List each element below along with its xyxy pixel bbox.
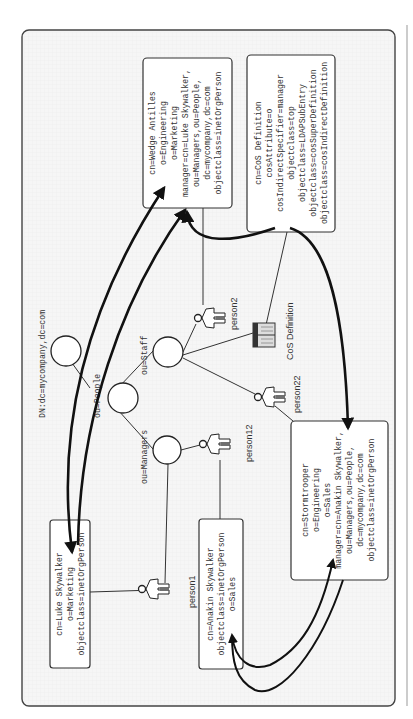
cos-diagram: DN:dc=mycompany,dc=com ou=People ou=Staf… bbox=[0, 0, 413, 719]
stormtrooper-line-7: objectclass=inetOrgPerson bbox=[367, 439, 376, 562]
wedge-line-5: ou=Managers,ou=People, bbox=[192, 79, 201, 187]
person22-label: person22 bbox=[292, 375, 302, 413]
anakin-line-2: objectclass=inetOrgPerson bbox=[217, 533, 226, 656]
wedge-line-6: dc=mycompany,dc=com bbox=[203, 86, 212, 179]
stormtrooper-line-6: dc=mycompany,dc=com bbox=[356, 453, 365, 546]
cos-definition-icon-label: CoS Definition bbox=[285, 302, 295, 360]
wedge-line-1: cn=Wedge Antilles bbox=[148, 91, 157, 175]
cos-line-7: objectclass=cosIndirectDefinition bbox=[320, 62, 329, 224]
person12-label: person12 bbox=[244, 424, 254, 462]
staff-label: ou=Staff bbox=[140, 336, 149, 375]
wedge-line-7: objectclass=inetOrgPerson bbox=[214, 72, 223, 195]
wedge-line-2: o=Engineering bbox=[159, 101, 168, 165]
stormtrooper-line-3: o=Sales bbox=[323, 483, 332, 517]
person1-label: person1 bbox=[187, 575, 197, 608]
stormtrooper-line-1: cn=Stormtrooper bbox=[301, 463, 310, 537]
cos-line-6: objectclass=cosSuperDefinition bbox=[309, 69, 318, 216]
entry-cos-definition[interactable]: cn=CoS Definition cosAttribute=o cosIndi… bbox=[247, 55, 335, 232]
cos-line-4: objectclass=top bbox=[287, 106, 296, 180]
cos-line-1: cn=CoS Definition bbox=[254, 101, 263, 185]
root-circle bbox=[51, 336, 81, 366]
cos-line-5: objectclass=LDAPSubEntry bbox=[298, 84, 307, 202]
stormtrooper-line-2: o=Engineering bbox=[312, 468, 321, 532]
root-label: DN:dc=mycompany,dc=com bbox=[38, 310, 47, 418]
stormtrooper-line-4: manager=cn=Anakin Skywalker, bbox=[334, 431, 343, 569]
cos-line-3: cosIndirectSpecifier=manager bbox=[276, 74, 285, 212]
people-circle bbox=[108, 383, 138, 413]
managers-label: ou=Managers bbox=[140, 430, 149, 484]
wedge-line-4: manager=cn=Luke Skywalker, bbox=[181, 69, 190, 197]
managers-circle bbox=[153, 436, 181, 464]
anakin-line-3: o=Sales bbox=[228, 577, 237, 611]
anakin-line-1: cn=Anakin Skywalker bbox=[206, 547, 215, 640]
entry-wedge-antilles[interactable]: cn=Wedge Antilles o=Engineering o=Market… bbox=[143, 58, 232, 208]
cos-definition-icon[interactable] bbox=[253, 323, 275, 347]
person2-label: person2 bbox=[229, 297, 239, 330]
entry-stormtrooper[interactable]: cn=Stormtrooper o=Engineering o=Sales ma… bbox=[291, 421, 388, 580]
luke-line-1: cn=Luke Skywalker bbox=[55, 552, 64, 636]
luke-line-3: objectclass=inetOrgPerson bbox=[77, 533, 86, 656]
luke-line-2: o=Marketing bbox=[66, 567, 75, 621]
staff-circle bbox=[153, 337, 183, 367]
entry-anakin-skywalker[interactable]: cn=Anakin Skywalker objectclass=inetOrgP… bbox=[199, 519, 243, 669]
wedge-line-3: o=Marketing bbox=[170, 106, 179, 160]
cos-line-2: cosAttribute=o bbox=[265, 109, 274, 178]
stormtrooper-line-5: ou=Managers,ou=People, bbox=[345, 446, 354, 554]
